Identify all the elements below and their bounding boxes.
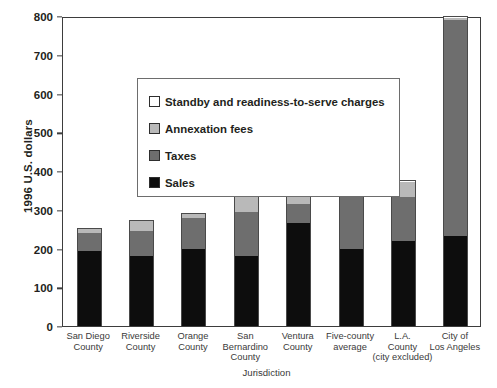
legend-swatch-taxes-icon: [149, 150, 160, 161]
bar-4: [286, 193, 311, 326]
x-axis-tick-label-line: Los Angeles: [410, 342, 497, 353]
bar-segment-taxes: [391, 197, 416, 240]
bar-segment-sales: [129, 256, 154, 326]
bar-segment-annexation: [129, 221, 154, 231]
legend-label-standby: Standby and readiness-to-serve charges: [165, 96, 385, 108]
bar-0: [77, 228, 102, 326]
y-axis-tick-label: 400: [34, 166, 53, 178]
bar-segment-taxes: [339, 197, 364, 249]
bar-segment-sales: [391, 241, 416, 326]
legend-swatch-standby-icon: [149, 96, 160, 107]
bar-segment-sales: [443, 236, 468, 326]
bar-2: [181, 213, 206, 326]
y-axis-tick-label: 600: [34, 89, 53, 101]
y-axis-tick-label: 100: [34, 282, 53, 294]
bar-segment-taxes: [181, 218, 206, 250]
bar-segment-sales: [77, 251, 102, 326]
y-axis-tick-label: 200: [34, 244, 53, 256]
bar-segment-sales: [234, 256, 259, 326]
y-axis-title: 1996 U.S. dollars: [22, 86, 34, 246]
x-axis-tick-label-line: County: [200, 352, 290, 363]
legend-label-sales: Sales: [165, 177, 195, 189]
legend-label-annexation: Annexation fees: [165, 123, 253, 135]
y-axis-tick-label: 700: [34, 50, 53, 62]
bar-segment-annexation: [234, 196, 259, 212]
x-axis-tick-label-7: City ofLos Angeles: [410, 331, 497, 352]
bar-segment-taxes: [286, 204, 311, 223]
bar-3: [234, 194, 259, 327]
bar-segment-taxes: [443, 20, 468, 236]
chart-legend: Standby and readiness-to-serve charges A…: [137, 78, 400, 197]
legend-item-sales: Sales: [149, 169, 399, 196]
legend-item-annexation: Annexation fees: [149, 115, 399, 142]
x-axis-tick-label-line: City of: [410, 331, 497, 342]
bar-segment-sales: [286, 223, 311, 326]
x-axis-title-text: Jurisdiction: [243, 367, 291, 378]
bar-segment-taxes: [129, 231, 154, 256]
bar-segment-taxes: [234, 212, 259, 256]
legend-swatch-sales-icon: [149, 177, 160, 188]
chart-container: 1996 U.S. dollars 0100200300400500600700…: [0, 0, 497, 388]
plot-area: Standby and readiness-to-serve charges A…: [62, 17, 481, 327]
x-axis-tick-label-line: (city excluded): [357, 352, 447, 363]
bar-1: [129, 220, 154, 326]
y-axis-tick-label: 800: [34, 11, 53, 23]
y-axis-tick-label: 500: [34, 127, 53, 139]
x-axis-title: Jurisdiction: [0, 367, 497, 378]
bar-segment-taxes: [77, 233, 102, 252]
bar-5: [339, 188, 364, 326]
legend-item-standby: Standby and readiness-to-serve charges: [149, 88, 399, 115]
bar-6: [391, 180, 416, 326]
bar-segment-sales: [181, 249, 206, 326]
legend-item-taxes: Taxes: [149, 142, 399, 169]
legend-label-taxes: Taxes: [165, 150, 196, 162]
bar-segment-sales: [339, 249, 364, 326]
bar-7: [443, 16, 468, 326]
legend-swatch-annexation-icon: [149, 123, 160, 134]
y-axis-tick-label: 300: [34, 205, 53, 217]
